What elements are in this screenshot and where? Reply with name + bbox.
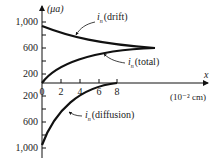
x-ticks [61, 79, 117, 83]
chart: 1,000 600 200 200 600 1,000 0 2 4 6 8 (μ… [0, 0, 220, 163]
y-label-1000-down: 1,000 [16, 142, 39, 153]
y-label-200-up: 200 [23, 68, 38, 79]
x-axis-var: x [203, 69, 209, 80]
total-label: in(total) [128, 56, 159, 69]
y-ticks [42, 22, 46, 148]
drift-curve [42, 26, 155, 48]
y-label-600-down: 600 [23, 116, 38, 127]
drift-label: in(drift) [97, 11, 128, 24]
diffusion-label: in(diffusion) [85, 109, 134, 122]
x-axis-unit: (10⁻² cm) [170, 92, 206, 102]
x-label-0: 0 [40, 86, 45, 97]
x-label-8: 8 [115, 86, 120, 97]
diffusion-pointer [69, 112, 82, 116]
y-label-200-down: 200 [23, 90, 38, 101]
x-label-2: 2 [59, 86, 64, 97]
drift-pointer [76, 22, 95, 35]
y-axis-unit: (μa) [47, 3, 64, 15]
y-label-600-up: 600 [23, 42, 38, 53]
total-pointer [104, 54, 125, 63]
y-label-1000-up: 1,000 [16, 16, 39, 27]
